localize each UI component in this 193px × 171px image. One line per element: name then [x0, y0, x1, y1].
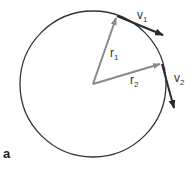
label-r1: r1: [110, 46, 119, 62]
panel-label: a: [3, 146, 11, 161]
label-r2: r2: [130, 73, 139, 89]
diagram-svg: v1 r1 r2 v2 a: [0, 0, 193, 171]
label-v1: v1: [137, 8, 148, 24]
circular-motion-diagram: v1 r1 r2 v2 a: [0, 0, 193, 171]
radius-vector-r2: [93, 64, 160, 84]
label-v2: v2: [174, 71, 185, 87]
